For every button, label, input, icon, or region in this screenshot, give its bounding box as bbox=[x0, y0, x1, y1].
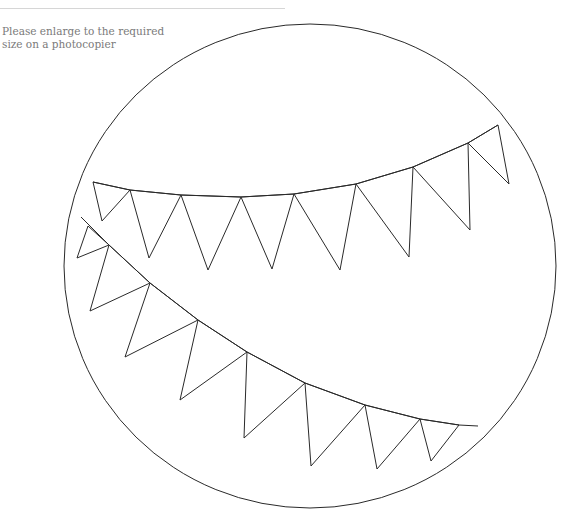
pennant-flag bbox=[294, 184, 356, 270]
pennant-flag bbox=[244, 352, 305, 438]
bunting-template bbox=[0, 0, 569, 517]
pennant-flag bbox=[413, 143, 470, 230]
upper-bunting bbox=[93, 125, 509, 270]
pennant-flag bbox=[420, 419, 459, 461]
bunting-layer bbox=[77, 125, 509, 469]
pennant-flag bbox=[365, 405, 420, 469]
pennant-flag bbox=[93, 182, 130, 221]
pennant-flag bbox=[241, 194, 294, 269]
pennant-flag bbox=[125, 283, 198, 357]
pennant-flag bbox=[181, 195, 241, 270]
pennant-flag bbox=[468, 125, 509, 184]
pennant-flag bbox=[305, 383, 365, 466]
lower-bunting bbox=[77, 217, 478, 469]
pennant-flag bbox=[130, 190, 181, 258]
pennant-flag bbox=[180, 320, 247, 400]
pennant-flag bbox=[356, 167, 413, 257]
pennant-flag bbox=[77, 226, 109, 258]
